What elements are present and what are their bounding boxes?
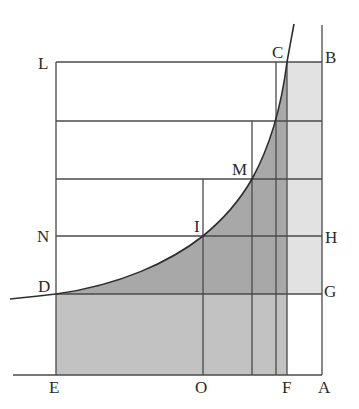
diagram: L C B M N I H D G E O F A	[0, 0, 359, 409]
label-O: O	[195, 378, 207, 397]
label-G: G	[324, 282, 336, 301]
label-A: A	[318, 378, 331, 397]
light-shaded-strip	[287, 62, 322, 294]
label-F: F	[282, 378, 291, 397]
label-B: B	[325, 48, 336, 67]
label-E: E	[49, 378, 59, 397]
label-M: M	[232, 160, 247, 179]
label-H: H	[325, 228, 337, 247]
label-N: N	[37, 227, 49, 246]
label-C: C	[272, 43, 283, 62]
label-L: L	[38, 54, 48, 73]
label-D: D	[38, 277, 50, 296]
label-I: I	[194, 217, 200, 236]
